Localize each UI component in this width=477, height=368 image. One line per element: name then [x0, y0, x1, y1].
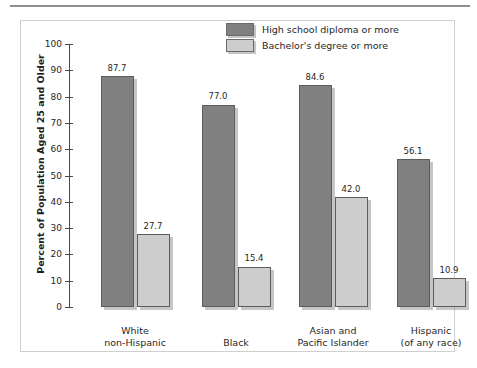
bar-high-school-1[interactable]	[202, 105, 235, 308]
x-category-label-3: Hispanic(of any race)	[401, 325, 462, 349]
y-tick-label-70: 70	[22, 118, 62, 128]
x-category-label-2-line-0: Asian and	[297, 325, 368, 337]
y-tick-label-100: 100	[22, 39, 62, 49]
y-tick-20	[65, 254, 73, 255]
x-category-label-3-line-1: (of any race)	[401, 337, 462, 349]
y-tick-label-80: 80	[22, 92, 62, 102]
x-category-label-0-line-0: White	[104, 325, 166, 337]
bar-value-high-school-3: 56.1	[404, 146, 423, 156]
y-tick-80	[65, 97, 73, 98]
bar-high-school-2[interactable]	[299, 85, 332, 307]
y-tick-70	[65, 123, 73, 124]
y-tick-30	[65, 228, 73, 229]
x-category-label-1-line-0: Black	[223, 337, 249, 349]
plot-area: 0102030405060708090100 87.727.777.015.48…	[21, 21, 456, 353]
bar-value-high-school-2: 84.6	[306, 72, 325, 82]
y-tick-90	[65, 70, 73, 71]
y-tick-10	[65, 281, 73, 282]
bar-value-high-school-0: 87.7	[108, 63, 127, 73]
y-tick-label-60: 60	[22, 144, 62, 154]
y-tick-label-90: 90	[22, 65, 62, 75]
y-tick-label-30: 30	[22, 223, 62, 233]
bar-high-school-3[interactable]	[397, 159, 430, 307]
y-tick-label-40: 40	[22, 197, 62, 207]
y-tick-50	[65, 176, 73, 177]
y-tick-label-20: 20	[22, 249, 62, 259]
x-category-label-3-line-0: Hispanic	[401, 325, 462, 337]
bar-bachelors-3[interactable]	[433, 278, 466, 307]
x-category-label-0-line-1: non-Hispanic	[104, 337, 166, 349]
bar-value-bachelors-0: 27.7	[144, 221, 163, 231]
x-category-label-1: Black	[223, 337, 249, 349]
bar-bachelors-2[interactable]	[335, 197, 368, 307]
bar-value-bachelors-3: 10.9	[440, 265, 459, 275]
x-category-label-2-line-1: Pacific Islander	[297, 337, 368, 349]
y-tick-label-0: 0	[22, 302, 62, 312]
chart-frame: High school diploma or more Bachelor's d…	[20, 20, 455, 352]
bar-value-high-school-1: 77.0	[209, 91, 228, 101]
bar-bachelors-0[interactable]	[137, 234, 170, 307]
y-tick-0	[65, 307, 73, 308]
y-tick-40	[65, 202, 73, 203]
bar-value-bachelors-1: 15.4	[245, 253, 264, 263]
y-tick-60	[65, 149, 73, 150]
bar-high-school-0[interactable]	[101, 76, 134, 307]
y-tick-label-10: 10	[22, 276, 62, 286]
x-category-label-0: Whitenon-Hispanic	[104, 325, 166, 349]
top-horizontal-rule	[10, 5, 470, 7]
bar-value-bachelors-2: 42.0	[342, 184, 361, 194]
y-tick-100	[65, 44, 73, 45]
y-tick-label-50: 50	[22, 171, 62, 181]
chart-page: High school diploma or more Bachelor's d…	[0, 0, 477, 368]
x-category-label-2: Asian andPacific Islander	[297, 325, 368, 349]
bar-bachelors-1[interactable]	[238, 267, 271, 308]
